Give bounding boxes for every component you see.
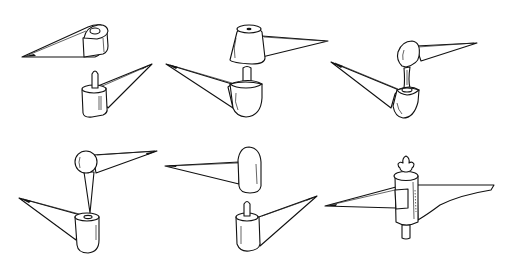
panel-1-pin-hinge: [22, 25, 152, 117]
panel-1-upper-arm: [22, 25, 108, 57]
panel-5-upper-cap: [165, 147, 261, 193]
panel-4-lower-knuckle: [19, 198, 99, 253]
panel-1-lower-arm: [82, 64, 152, 117]
panel-6-bottom-pin: [402, 225, 410, 239]
panel-2-upper-cap: [230, 25, 328, 64]
panel-5-lower-knuckle: [236, 196, 317, 251]
panel-2-cap-hinge: [166, 25, 328, 117]
panel-6-fleur-de-lis-finial: [398, 156, 414, 172]
panel-5-capsule-hinge: [165, 147, 317, 251]
panel-6-strap: [395, 189, 408, 209]
panel-3-ball-socket-hinge: [331, 41, 477, 118]
panel-6-assembled-hinge: [325, 156, 494, 239]
panel-6-right-arm: [417, 185, 494, 220]
hinge-diagram: [0, 0, 508, 268]
panel-3-upper-ball: [398, 41, 478, 88]
panel-4-upper-ball: [75, 151, 157, 213]
panel-2-pin: [243, 67, 251, 83]
panel-4-cone-socket-hinge: [19, 151, 157, 253]
